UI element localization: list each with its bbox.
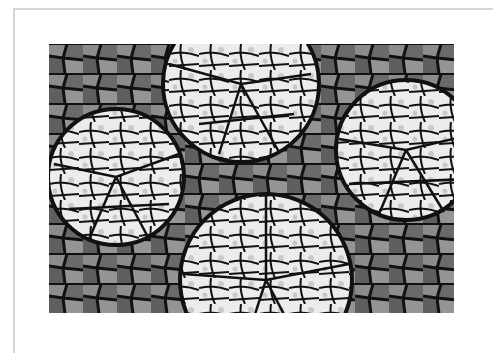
mosaic-illustration bbox=[49, 44, 454, 313]
mosaic-photo: Black-and-white photograph of a stained-… bbox=[49, 44, 454, 313]
